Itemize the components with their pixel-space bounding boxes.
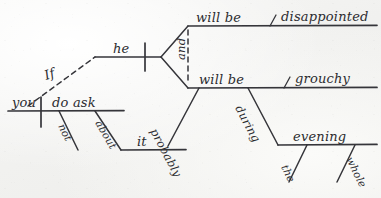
verb-do-ask: do ask [52,95,96,110]
prep-phrase-during-group: during evening the whole [232,88,377,189]
subject-he: he [113,41,130,56]
prep-object-evening: evening [293,129,346,144]
baseline-bottom-predicate [188,87,377,88]
fork-arm-lower [161,57,188,88]
subordinator-if: If [41,65,58,83]
complement-grouchy: grouchy [295,71,351,86]
predicate-adjective-slash-top [270,15,276,26]
prep-object-it: it [137,134,147,149]
sentence-diagram: will be disappointed will be grouchy and… [0,0,381,198]
verb-will-be-bottom: will be [199,72,244,87]
slant-line-probably [168,88,199,146]
main-subject-group: he [95,41,161,71]
baseline-top-predicate [188,25,377,26]
adverb-probably: probably [147,126,184,180]
predicate-adjective-slash-bottom [284,77,290,88]
compound-predicate-fork: and [161,26,188,88]
adjective-whole: whole [344,155,369,190]
preposition-about: about [93,118,119,152]
article-the: the [279,163,298,184]
adverb-probably-group: probably [147,88,199,180]
adverb-not: not [56,122,75,144]
diagram-canvas: will be disappointed will be grouchy and… [0,0,381,198]
baseline-prep-object-evening [278,144,377,145]
predicate-branch-disappointed: will be disappointed [188,9,377,26]
complement-disappointed: disappointed [281,9,369,24]
subject-you: you [11,95,36,110]
verb-will-be-top: will be [196,10,241,25]
predicate-branch-grouchy: will be grouchy [188,71,377,88]
conjunction-and: and [174,38,188,60]
